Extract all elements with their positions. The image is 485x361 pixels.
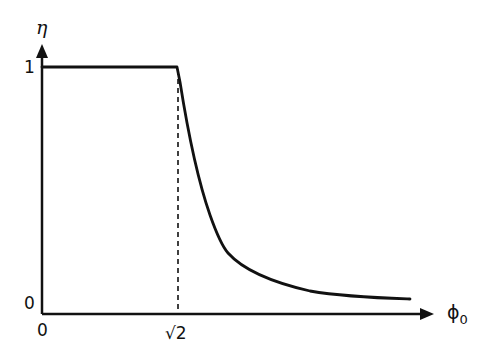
y-axis-label: η	[36, 18, 47, 37]
chart-canvas	[0, 0, 485, 361]
y-tick-1: 1	[24, 59, 35, 76]
x-axis-label: ϕ0	[447, 303, 468, 326]
eta-curve	[42, 67, 410, 299]
x-axis-label-sub: 0	[460, 312, 468, 327]
y-tick-0: 0	[24, 295, 35, 312]
x-axis-arrow-icon	[420, 308, 434, 320]
x-axis-label-phi: ϕ	[447, 301, 460, 323]
x-tick-sqrt2: √2	[165, 325, 187, 342]
y-axis-arrow-icon	[36, 44, 48, 58]
x-tick-0: 0	[37, 322, 48, 339]
